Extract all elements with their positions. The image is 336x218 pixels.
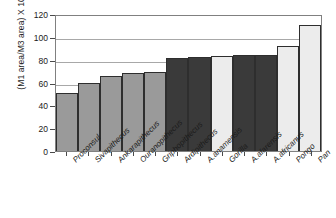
y-tick-mark — [50, 129, 55, 130]
x-tick-label: Ouranopithecus — [138, 158, 144, 164]
y-tick-mark — [50, 38, 55, 39]
y-tick-mark — [50, 152, 55, 153]
y-tick-label: 100 — [34, 34, 48, 43]
x-tick-mark — [133, 152, 134, 156]
y-tick-label: 60 — [39, 79, 48, 88]
y-tick-mark — [50, 84, 55, 85]
y-tick-mark — [50, 106, 55, 107]
x-tick-mark — [177, 152, 178, 156]
x-tick-label: Ardipithecus — [182, 158, 188, 164]
y-tick-mark — [50, 61, 55, 62]
x-tick-label: A.anamensis — [205, 158, 211, 164]
x-tick-mark — [266, 152, 267, 156]
bar-chart-figure: (M1 area/M3 area) X 100 120100806040200 … — [0, 0, 336, 218]
x-tick-label: A.africanus — [271, 158, 277, 164]
x-tick-mark — [222, 152, 223, 156]
x-tick-mark — [111, 152, 112, 156]
x-tick-mark — [155, 152, 156, 156]
y-axis-tick-labels: 120100806040200 — [24, 15, 48, 152]
x-tick-label: A.afarensis — [249, 158, 255, 164]
x-tick-label: Griphopithecus — [160, 158, 166, 164]
x-axis-tick-labels: ProconsulSivapithecusAnkarapithecusOuran… — [55, 152, 322, 218]
y-tick-label: 20 — [39, 125, 48, 134]
x-tick-label: Sivapithecus — [93, 158, 99, 164]
x-tick-mark — [244, 152, 245, 156]
y-tick-label: 40 — [39, 102, 48, 111]
x-tick-mark — [88, 152, 89, 156]
x-tick-mark — [311, 152, 312, 156]
y-tick-label: 80 — [39, 56, 48, 65]
x-tick-mark — [66, 152, 67, 156]
y-tick-label: 0 — [43, 148, 48, 157]
x-tick-label: Pongo — [294, 158, 300, 164]
x-tick-mark — [289, 152, 290, 156]
x-tick-label: Gorilla — [227, 158, 233, 164]
y-tick-label: 120 — [34, 11, 48, 20]
y-tick-mark — [50, 15, 55, 16]
x-tick-label: Pan — [316, 158, 322, 164]
x-tick-label: Ankarapithecus — [116, 158, 122, 164]
bar — [56, 93, 78, 151]
x-tick-mark — [200, 152, 201, 156]
x-tick-label: Proconsul — [71, 158, 77, 164]
